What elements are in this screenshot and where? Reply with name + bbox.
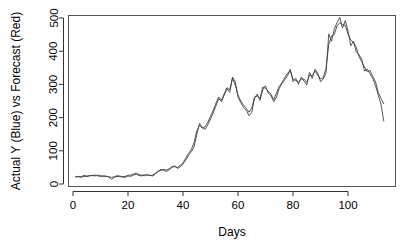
x-axis-tick-label: 100 [338,199,357,211]
chart-figure: 0100200300400500 020406080100 Days Actua… [0,0,410,249]
x-axis-tick-label: 40 [177,199,190,211]
x-axis-title: Days [218,225,245,239]
y-axis-tick-label: 0 [48,181,60,187]
y-axis-tick-label: 100 [48,141,60,160]
x-axis-tick-label: 0 [70,199,76,211]
y-axis-tick-label: 300 [48,75,60,94]
y-axis-title: Actual Y (Blue) vs Forecast (Red) [9,12,23,190]
y-axis-tick-label: 200 [48,108,60,127]
x-axis-tick-label: 80 [287,199,300,211]
y-axis-tick-label: 400 [48,42,60,61]
x-axis-tick-label: 60 [232,199,245,211]
y-axis-tick-label: 500 [48,8,60,27]
x-axis-tick-label: 20 [122,199,135,211]
chart-canvas: 0100200300400500 020406080100 Days Actua… [0,0,410,249]
chart-background [0,0,410,249]
